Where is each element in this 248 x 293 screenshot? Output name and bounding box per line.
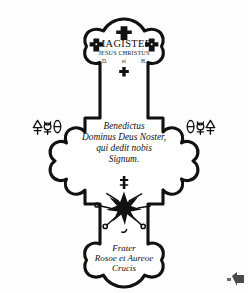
bottom-line-2: Rosoe et Aureoe <box>94 253 153 263</box>
center-line-2: Dominus Deus Noster, <box>81 132 166 142</box>
center-line-3: qui dedit nobis <box>96 143 152 153</box>
right-arm-symbols <box>187 120 214 134</box>
left-arm-symbols <box>33 120 60 134</box>
sulphur-symbol-left <box>33 120 42 134</box>
center-line-1: Benedictus <box>103 121 144 131</box>
mercury-symbol-left <box>44 122 51 134</box>
initial-right: H. <box>141 58 146 64</box>
jesus-christus-subtitle: JESUS CHRISTUS <box>98 50 149 56</box>
magister-title: MAGISTER <box>96 38 152 49</box>
center-line-4: Signum. <box>109 154 139 164</box>
mercury-symbol-right <box>197 122 204 134</box>
sulphur-symbol-right <box>206 120 215 134</box>
initial-middle: et <box>122 58 126 64</box>
bottom-line-1: Frater <box>111 243 136 253</box>
emblem-page: MAGISTER JESUS CHRISTUS D. et H. <box>0 0 248 293</box>
saturn-symbol-left <box>54 121 61 133</box>
rosicrucian-cross-emblem: MAGISTER JESUS CHRISTUS D. et H. <box>0 0 248 293</box>
initial-left: D. <box>102 58 107 64</box>
saturn-symbol-right <box>187 121 194 133</box>
page-corner-artifact <box>224 269 246 289</box>
bottom-line-3: Crucis <box>112 263 137 273</box>
